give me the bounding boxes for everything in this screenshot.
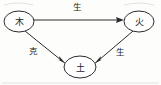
node-wood[interactable]: 木	[4, 11, 34, 32]
node-earth-label: 土	[76, 62, 85, 73]
node-fire[interactable]: 火	[124, 11, 154, 32]
edge-label-wood-to-earth: 克	[29, 46, 38, 56]
node-fire-label: 火	[135, 17, 144, 27]
arrowhead-fire	[116, 17, 124, 23]
edge-wood-to-fire: 生	[34, 2, 124, 23]
diagram-canvas: 生 克 生 木 火 土	[0, 0, 161, 85]
edge-wood-to-earth: 克	[25, 31, 66, 64]
wuxing-diagram: 生 克 生 木 火 土	[0, 0, 161, 85]
edge-fire-to-earth: 生	[94, 31, 133, 64]
node-earth[interactable]: 土	[64, 56, 96, 78]
edge-label-fire-to-earth: 生	[116, 47, 125, 57]
node-wood-label: 木	[15, 16, 24, 27]
edge-label-wood-to-fire: 生	[73, 2, 82, 12]
